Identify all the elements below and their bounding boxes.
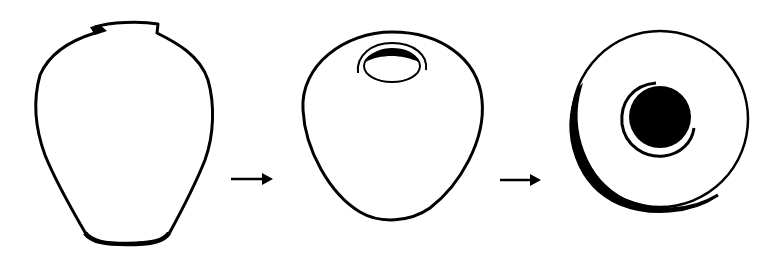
vase-tilted-icon (303, 32, 483, 220)
vase-top-icon (571, 31, 748, 211)
vase-icon (36, 22, 213, 244)
diagram-canvas: Vase (side view) Vase (tilted view) Vase… (0, 0, 772, 264)
vase-sequence-diagram (0, 0, 772, 264)
arrow-right-icon (500, 174, 541, 186)
arrow-right-icon (231, 173, 273, 185)
